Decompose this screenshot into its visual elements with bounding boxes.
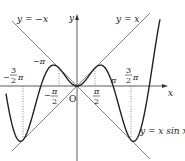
svg-text:π: π <box>93 87 100 96</box>
label-y-axis: y <box>68 13 75 23</box>
svg-text:−: − <box>44 91 51 100</box>
svg-text:π: π <box>132 73 139 82</box>
svg-text:3: 3 <box>11 66 16 75</box>
svg-text:2: 2 <box>126 76 131 85</box>
y-axis-arrow-icon <box>75 14 79 20</box>
tick-label-3pi-2: 3 2 π <box>125 66 139 85</box>
svg-text:2: 2 <box>94 97 99 106</box>
svg-text:π: π <box>51 87 58 96</box>
label-y-neg-x: y = −x <box>16 14 48 24</box>
tick-label-pi: π <box>110 76 117 85</box>
svg-text:3: 3 <box>126 66 131 75</box>
tick-label-neg-pi: −π <box>33 57 46 66</box>
svg-text:2: 2 <box>11 76 16 85</box>
label-y-x: y = x <box>115 14 139 24</box>
svg-text:π: π <box>17 73 24 82</box>
tick-label-pi-2: π 2 <box>93 87 100 106</box>
label-x-axis: x <box>168 88 173 98</box>
label-origin: O <box>69 94 76 104</box>
label-curve: y = x sin x <box>139 126 185 136</box>
tick-label-neg-3pi-2: − 3 2 π <box>3 66 24 85</box>
svg-text:−: − <box>3 73 10 82</box>
tick-label-neg-pi-2: − π 2 <box>44 87 58 106</box>
svg-text:2: 2 <box>52 97 57 106</box>
chart-canvas: y = −x y = x y x O y = x sin x −π π − 3 … <box>0 0 185 161</box>
